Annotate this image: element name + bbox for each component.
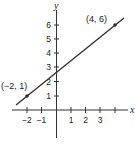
point-4-6 [113, 23, 117, 27]
x-axis-label: x [129, 104, 135, 115]
svg-text:1: 1 [69, 115, 74, 125]
y-axis-label: y [53, 0, 59, 11]
point-neg2-1 [25, 94, 29, 98]
data-line [16, 18, 124, 105]
svg-text:3: 3 [98, 115, 103, 125]
svg-text:1: 1 [46, 91, 51, 101]
y-tick-labels: 1 2 3 4 5 6 [46, 20, 51, 101]
annotation-4-6: (4, 6) [86, 14, 107, 24]
svg-text:6: 6 [46, 20, 51, 30]
coordinate-plane-chart: −2 −1 1 2 3 1 2 3 4 5 6 x y (−2, 1) (4, … [0, 0, 136, 148]
svg-text:2: 2 [83, 115, 88, 125]
svg-text:−1: −1 [37, 115, 47, 125]
svg-text:5: 5 [46, 34, 51, 44]
annotation-neg2-1: (−2, 1) [1, 81, 27, 91]
svg-text:4: 4 [46, 48, 51, 58]
x-tick-labels: −2 −1 1 2 3 [22, 115, 102, 125]
svg-text:−2: −2 [22, 115, 32, 125]
svg-text:3: 3 [46, 62, 51, 72]
